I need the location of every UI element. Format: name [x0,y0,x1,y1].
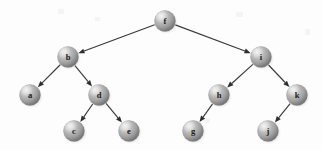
tree-canvas: fbiadhkcegj [0,0,322,150]
node-gloss [287,85,308,106]
tree-node-b[interactable]: b [57,47,81,71]
tree-edge-d-to-e [106,103,122,122]
tree-edge-k-to-j [275,104,290,123]
node-gloss [155,11,176,32]
arrow-head-icon [244,49,251,54]
node-gloss [183,121,204,142]
edge-line [84,104,93,117]
node-gloss [20,85,41,106]
tree-edge-i-to-h [227,64,253,87]
edge-line [75,66,88,82]
node-gloss [64,121,85,142]
node-layer: fbiadhkcegj [19,11,310,145]
arrow-head-icon [80,115,86,122]
node-gloss [89,85,110,106]
tree-node-a[interactable]: a [19,85,43,109]
node-gloss [58,47,79,68]
tree-node-i[interactable]: i [250,47,274,71]
edge-line [175,25,245,51]
node-gloss [258,121,279,142]
edge-layer [38,25,290,123]
edge-line [106,103,118,117]
edge-line [232,64,253,83]
node-gloss [209,85,230,106]
tree-node-k[interactable]: k [286,85,310,109]
tree-edge-f-to-b [78,25,154,54]
tree-node-e[interactable]: e [118,121,142,145]
tree-edge-f-to-i [175,25,250,53]
tree-node-d[interactable]: d [88,85,112,109]
tree-edge-i-to-k [269,65,290,87]
tree-node-c[interactable]: c [63,121,87,145]
tree-node-f[interactable]: f [154,11,178,35]
tree-edge-h-to-g [199,104,212,122]
tree-edge-b-to-d [75,66,92,87]
edge-line [84,25,155,51]
edge-line [42,65,60,83]
tree-diagram-figure: fbiadhkcegj [0,0,322,150]
tree-node-g[interactable]: g [182,121,206,145]
node-gloss [119,121,140,142]
node-gloss [251,47,272,68]
tree-edge-b-to-a [38,65,60,87]
edge-line [279,104,290,118]
arrow-head-icon [199,116,205,122]
tree-node-h[interactable]: h [208,85,232,109]
tree-node-j[interactable]: j [257,121,281,145]
tree-edge-d-to-c [80,104,92,122]
edge-line [203,104,212,117]
edge-line [269,65,286,83]
